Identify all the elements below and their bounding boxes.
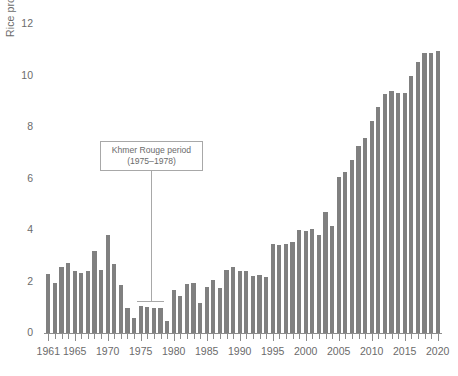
bar [304, 231, 308, 333]
bar [139, 306, 143, 333]
x-tick [194, 334, 195, 339]
bar [436, 51, 440, 333]
y-tick-label: 0 [11, 327, 33, 338]
bar [409, 76, 413, 333]
bar [429, 53, 433, 333]
x-tick [431, 334, 432, 339]
bar [376, 107, 380, 333]
bar [106, 235, 110, 333]
x-tick [266, 334, 267, 339]
x-tick [121, 334, 122, 339]
bar [422, 53, 426, 333]
x-tick [365, 334, 366, 339]
x-tick [174, 334, 175, 341]
x-tick-label: 2010 [354, 345, 390, 357]
x-tick [378, 334, 379, 339]
y-tick-label: 10 [11, 70, 33, 81]
x-tick [48, 334, 49, 341]
x-tick [75, 334, 76, 341]
x-tick [220, 334, 221, 339]
bar [330, 226, 334, 333]
bar [185, 284, 189, 333]
bar [231, 267, 235, 333]
x-tick-label: 1985 [189, 345, 225, 357]
x-tick [299, 334, 300, 339]
bar [218, 288, 222, 333]
bar [277, 245, 281, 333]
x-tick [326, 334, 327, 339]
bar [125, 308, 129, 333]
x-tick [187, 334, 188, 339]
x-tick [147, 334, 148, 339]
bar [244, 271, 248, 333]
x-tick [180, 334, 181, 339]
x-tick [55, 334, 56, 339]
x-tick [273, 334, 274, 341]
x-tick [260, 334, 261, 339]
bars-layer [45, 24, 441, 333]
x-tick [213, 334, 214, 339]
y-tick-label: 8 [11, 121, 33, 132]
bar [238, 271, 242, 333]
annotation-span-bracket [137, 301, 163, 302]
y-axis-title: Rice production (millions of metric tons… [2, 0, 18, 68]
bar [317, 235, 321, 333]
annotation-line-2: (1975–1978) [101, 156, 202, 167]
bar [343, 172, 347, 333]
bar [178, 296, 182, 333]
bar [350, 160, 354, 333]
bar [119, 285, 123, 333]
bar [53, 283, 57, 333]
annotation-line-1: Khmer Rouge period [101, 145, 202, 156]
x-tick-label: 1990 [222, 345, 258, 357]
bar [152, 308, 156, 333]
bar [284, 244, 288, 333]
bar [79, 273, 83, 333]
x-tick [405, 334, 406, 341]
x-tick [312, 334, 313, 339]
bar [165, 321, 169, 333]
x-tick [385, 334, 386, 339]
x-tick [114, 334, 115, 339]
y-tick-label: 6 [11, 173, 33, 184]
bar [191, 283, 195, 333]
x-tick [240, 334, 241, 341]
x-tick [306, 334, 307, 341]
bar [251, 276, 255, 333]
x-tick [200, 334, 201, 339]
x-tick [134, 334, 135, 339]
bar [92, 251, 96, 333]
bar [99, 270, 103, 333]
x-tick-label: 1965 [57, 345, 93, 357]
x-tick [81, 334, 82, 339]
x-tick [332, 334, 333, 339]
bar [264, 277, 268, 333]
bar [205, 287, 209, 333]
x-tick-label: 2015 [387, 345, 423, 357]
x-tick [88, 334, 89, 339]
x-tick [94, 334, 95, 339]
x-tick [161, 334, 162, 339]
x-tick [411, 334, 412, 339]
bar [66, 263, 70, 333]
bar [158, 308, 162, 333]
bar [145, 307, 149, 333]
x-tick [359, 334, 360, 339]
x-tick-label: 1970 [90, 345, 126, 357]
bar [396, 93, 400, 333]
x-tick-label: 2020 [420, 345, 456, 357]
x-tick [141, 334, 142, 341]
x-tick [62, 334, 63, 339]
x-tick [352, 334, 353, 339]
x-tick [319, 334, 320, 339]
bar [403, 93, 407, 333]
y-tick-label: 12 [11, 18, 33, 29]
bar [297, 230, 301, 333]
x-tick [425, 334, 426, 339]
x-axis-line [44, 333, 442, 334]
x-tick-label: 1995 [255, 345, 291, 357]
annotation-leader-line [151, 171, 152, 302]
rice-production-bar-chart: Rice production (millions of metric tons… [0, 0, 458, 376]
x-tick [398, 334, 399, 339]
y-tick-label: 4 [11, 224, 33, 235]
